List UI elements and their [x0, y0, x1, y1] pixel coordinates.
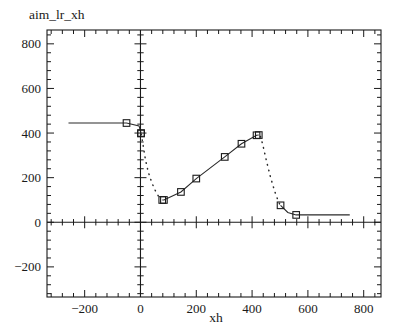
- x-tick-label: 600: [298, 301, 318, 316]
- data-markers-group: [123, 120, 299, 218]
- chart-title: aim_lr_xh: [29, 7, 85, 22]
- y-tick-label: 0: [35, 215, 42, 230]
- x-tick-label: 200: [187, 301, 207, 316]
- chart-canvas: −2000200400600800−2000200400600800 aim_l…: [0, 0, 408, 327]
- data-series-group: [68, 123, 349, 215]
- series-line: [141, 134, 161, 199]
- y-tick-label: 600: [22, 81, 42, 96]
- y-tick-label: −200: [14, 259, 41, 274]
- x-axis-label: xh: [209, 310, 223, 325]
- chart-figure: −2000200400600800−2000200400600800 aim_l…: [0, 0, 408, 327]
- x-tick-label: −200: [71, 301, 98, 316]
- x-tick-label: 400: [242, 301, 262, 316]
- series-line: [260, 136, 280, 204]
- axis-ticks: [47, 30, 381, 297]
- series-line: [281, 205, 350, 215]
- plot-frame: [47, 30, 381, 297]
- x-tick-label: 0: [137, 301, 144, 316]
- zero-axes: [47, 30, 381, 297]
- y-tick-label: 800: [22, 36, 42, 51]
- y-tick-label: 200: [22, 170, 42, 185]
- y-tick-label: 400: [22, 126, 42, 141]
- x-tick-label: 800: [354, 301, 374, 316]
- tick-labels: −2000200400600800−2000200400600800: [14, 36, 373, 316]
